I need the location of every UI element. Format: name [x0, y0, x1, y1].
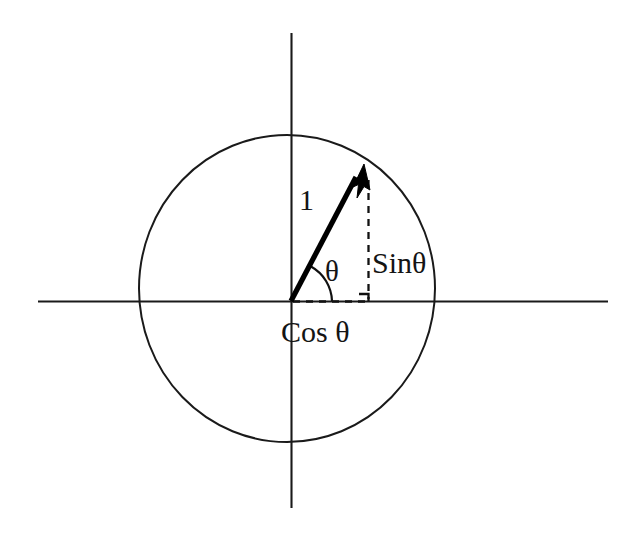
sine-label: Sinθ — [372, 248, 426, 278]
diagram-canvas — [0, 0, 627, 536]
radius-length-label: 1 — [299, 185, 314, 215]
angle-theta-label: θ — [325, 257, 339, 286]
cosine-label: Cos θ — [281, 317, 350, 347]
unit-circle-outline — [139, 135, 435, 442]
unit-circle-diagram: 1 θ Sinθ Cos θ — [0, 0, 627, 536]
radius-vector-arrowhead — [353, 164, 370, 198]
